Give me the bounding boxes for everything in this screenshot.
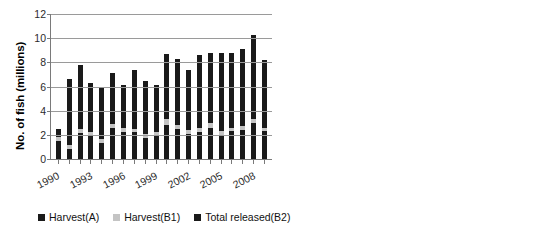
legend-item-total-released-b2: Total released(B2) bbox=[194, 211, 290, 223]
left-chart-stacked-bar bbox=[121, 85, 126, 159]
left-chart-plot-area: 1990199319961999200220052008 024681012 bbox=[50, 14, 272, 160]
figure-container: No. of fish (millions) 19901993199619992… bbox=[0, 0, 552, 235]
left-chart-bar-segment bbox=[154, 136, 159, 159]
left-chart-y-tick-label: 4 bbox=[40, 105, 46, 117]
left-chart-stacked-bar bbox=[175, 59, 180, 159]
left-chart-y-tick bbox=[47, 111, 51, 112]
left-chart-gridline bbox=[51, 62, 272, 63]
left-chart-bar-segment bbox=[88, 136, 93, 159]
legend-label-total-released-b2: Total released(B2) bbox=[205, 211, 290, 223]
left-chart-bar-segment bbox=[88, 83, 93, 133]
left-chart-y-tick bbox=[47, 87, 51, 88]
left-chart-bar-segment bbox=[251, 35, 256, 120]
left-chart-stacked-bar bbox=[164, 54, 169, 159]
left-chart-bar-segment bbox=[197, 132, 202, 159]
legend-swatch-harvest-b1 bbox=[113, 214, 120, 221]
left-chart-x-tick-label: 1999 bbox=[133, 169, 159, 190]
left-chart-stacked-bar bbox=[208, 53, 213, 159]
left-chart-stacked-bar bbox=[88, 83, 93, 159]
left-chart-stacked-bar bbox=[78, 65, 83, 159]
left-chart-gridline bbox=[51, 38, 272, 39]
left-chart-bar-segment bbox=[132, 132, 137, 159]
legend-label-harvest-a: Harvest(A) bbox=[49, 211, 99, 223]
left-chart-bar-segment bbox=[78, 133, 83, 159]
left-chart-bar-segment bbox=[175, 129, 180, 159]
left-chart-bar-segment bbox=[121, 132, 126, 159]
legend: Harvest(A) Harvest(B1) Total released(B2… bbox=[38, 211, 290, 223]
left-chart-panel: No. of fish (millions) 19901993199619992… bbox=[0, 0, 282, 235]
left-chart-y-tick-label: 0 bbox=[40, 153, 46, 165]
right-chart-panel: Lb (millions) 19901993199619992002200520… bbox=[282, 0, 552, 235]
left-chart-stacked-bar bbox=[240, 49, 245, 159]
left-chart-x-tick-label: 2005 bbox=[198, 169, 224, 190]
left-chart-bar-segment bbox=[56, 129, 61, 137]
left-chart-y-tick-label: 2 bbox=[40, 129, 46, 141]
left-chart-gridline bbox=[51, 14, 272, 15]
left-chart-bar-segment bbox=[219, 135, 224, 159]
left-chart-bar-segment bbox=[56, 141, 61, 159]
left-chart-stacked-bar bbox=[251, 35, 256, 159]
left-chart-stacked-bar bbox=[99, 88, 104, 159]
left-chart-bar-segment bbox=[251, 123, 256, 159]
legend-item-harvest-b1: Harvest(B1) bbox=[113, 211, 180, 223]
left-chart-bar-segment bbox=[208, 128, 213, 159]
left-chart-x-labels: 1990199319961999200220052008 bbox=[51, 159, 272, 199]
left-chart-stacked-bar bbox=[197, 55, 202, 159]
left-chart-bar-segment bbox=[240, 49, 245, 126]
left-chart-x-tick-label: 2008 bbox=[231, 169, 257, 190]
left-chart-x-tick-label: 1990 bbox=[35, 169, 61, 190]
left-chart-stacked-bar bbox=[154, 85, 159, 159]
left-chart-bar-segment bbox=[219, 53, 224, 132]
left-chart-y-tick-label: 6 bbox=[40, 81, 46, 93]
legend-item-harvest-a: Harvest(A) bbox=[38, 211, 99, 223]
left-chart-bar-segment bbox=[99, 88, 104, 139]
left-chart-stacked-bar bbox=[229, 53, 234, 159]
left-chart-y-axis-title: No. of fish (millions) bbox=[14, 42, 26, 150]
left-chart-stacked-bar bbox=[143, 81, 148, 159]
left-chart-bar-segment bbox=[110, 73, 115, 124]
left-chart-bar-segment bbox=[110, 128, 115, 159]
left-chart-stacked-bar bbox=[262, 60, 267, 159]
legend-label-harvest-b1: Harvest(B1) bbox=[124, 211, 180, 223]
left-chart-bar-segment bbox=[229, 53, 234, 128]
left-chart-y-tick-label: 8 bbox=[40, 56, 46, 68]
left-chart-bar-segment bbox=[121, 85, 126, 128]
left-chart-bar-segment bbox=[186, 134, 191, 159]
left-chart-bar-segment bbox=[186, 70, 191, 130]
left-chart-x-tick-label: 2002 bbox=[165, 169, 191, 190]
left-chart-bar-segment bbox=[262, 60, 267, 128]
left-chart-y-tick-label: 12 bbox=[34, 8, 46, 20]
left-chart-bar-segment bbox=[143, 138, 148, 159]
left-chart-y-tick bbox=[47, 62, 51, 63]
left-chart-stacked-bar bbox=[132, 70, 137, 159]
left-chart-y-tick bbox=[47, 14, 51, 15]
left-chart-bar-segment bbox=[99, 143, 104, 159]
left-chart-bar-segment bbox=[132, 70, 137, 129]
left-chart-bar-segment bbox=[67, 149, 72, 159]
left-chart-bar-segment bbox=[197, 55, 202, 128]
left-chart-x-tick-label: 1993 bbox=[68, 169, 94, 190]
left-chart-gridline bbox=[51, 111, 272, 112]
legend-swatch-harvest-a bbox=[38, 214, 45, 221]
left-chart-x-tick-label: 1996 bbox=[100, 169, 126, 190]
left-chart-bar-segment bbox=[164, 125, 169, 159]
left-chart-y-tick bbox=[47, 135, 51, 136]
left-chart-y-tick bbox=[47, 159, 51, 160]
legend-swatch-total-released-b2 bbox=[194, 214, 201, 221]
left-chart-bar-segment bbox=[143, 81, 148, 134]
left-chart-bar-segment bbox=[175, 59, 180, 124]
left-chart-stacked-bar bbox=[186, 70, 191, 159]
left-chart-bar-segment bbox=[78, 65, 83, 130]
left-chart-bar-segment bbox=[154, 85, 159, 132]
left-chart-stacked-bar bbox=[219, 53, 224, 159]
left-chart-gridline bbox=[51, 87, 272, 88]
left-chart-y-tick bbox=[47, 38, 51, 39]
left-chart-gridline bbox=[51, 135, 272, 136]
left-chart-y-tick-label: 10 bbox=[34, 32, 46, 44]
left-chart-stacked-bar bbox=[67, 79, 72, 159]
